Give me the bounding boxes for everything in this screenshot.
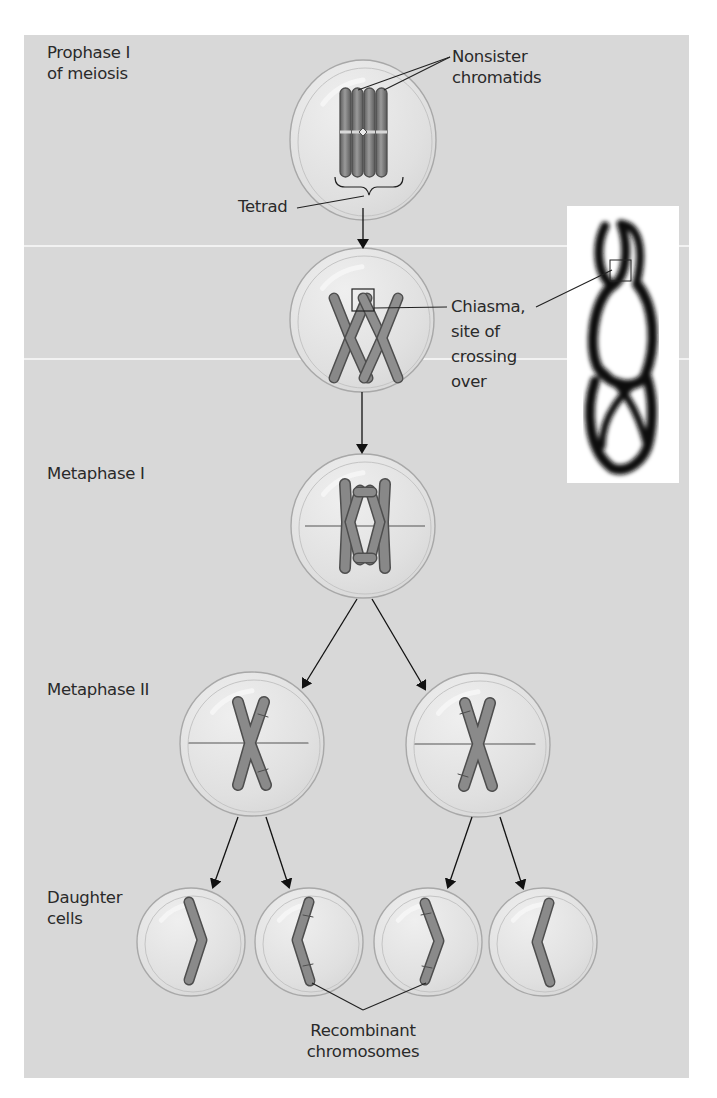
label-daughter-cells: Daughter cells [47, 887, 122, 929]
label-tetrad: Tetrad [238, 196, 287, 217]
label-recombinant-chromosomes: Recombinant chromosomes [283, 1020, 443, 1062]
label-prophase: Prophase I of meiosis [47, 42, 130, 84]
label-metaphase-1: Metaphase I [47, 463, 145, 484]
tetrad-chromosomes [340, 88, 387, 177]
label-metaphase-2: Metaphase II [47, 679, 149, 700]
label-chiasma: Chiasma, site of crossing over [451, 294, 525, 394]
meiosis-diagram [0, 0, 717, 1098]
label-nonsister-chromatids: Nonsister chromatids [452, 46, 541, 88]
